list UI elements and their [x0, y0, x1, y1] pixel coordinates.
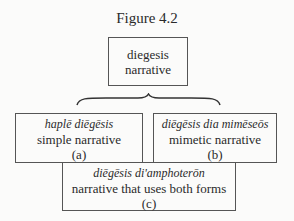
gloss-both-forms: narrative that uses both forms — [72, 181, 227, 196]
diegesis-gloss: narrative — [125, 62, 171, 77]
curly-brace — [76, 93, 221, 107]
label-c: (c) — [142, 196, 156, 211]
term-haple-diegesis: haplē diēgēsis — [45, 117, 113, 132]
term-diegesis-dia-mimeseos: diēgēsis dia mimēseōs — [162, 117, 269, 132]
diegesis-box: diegesis narrative — [108, 37, 188, 86]
both-forms-narrative-box: diēgēsis di'amphoterōn narrative that us… — [62, 162, 236, 211]
mimetic-narrative-box: diēgēsis dia mimēseōs mimetic narrative … — [153, 113, 277, 163]
gloss-simple-narrative: simple narrative — [37, 132, 121, 147]
gloss-mimetic-narrative: mimetic narrative — [169, 132, 261, 147]
simple-narrative-box: haplē diēgēsis simple narrative (a) — [15, 113, 143, 163]
figure-title: Figure 4.2 — [0, 9, 294, 27]
label-b: (b) — [207, 147, 222, 162]
diegesis-term: diegesis — [127, 47, 169, 62]
label-a: (a) — [72, 147, 86, 162]
term-diegesis-di-amphoteron: diēgēsis di'amphoterōn — [93, 166, 205, 181]
